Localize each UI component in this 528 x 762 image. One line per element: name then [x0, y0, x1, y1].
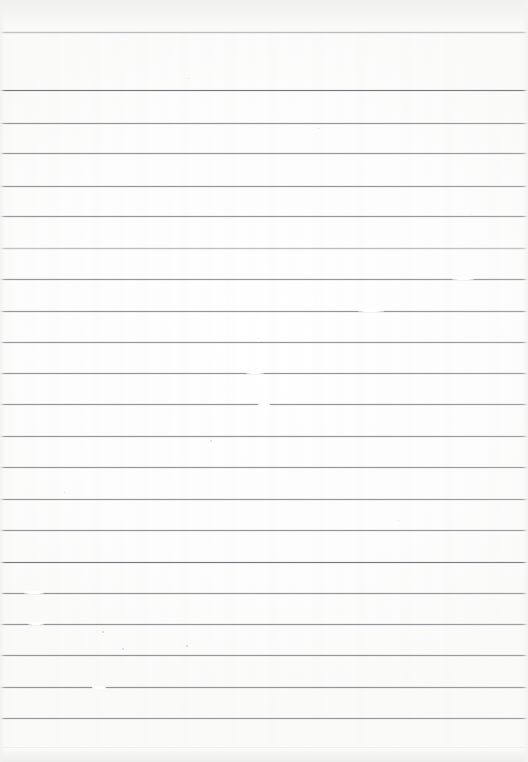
ruling-line-ink: [0, 467, 528, 468]
ruling-line: [0, 216, 528, 217]
ruling-line: [0, 32, 528, 33]
ruling-line-ink: [0, 530, 528, 531]
ruling-line-ink: [0, 153, 528, 154]
line-gap-artifact: [24, 591, 44, 594]
ruling-line-ink: [0, 90, 528, 91]
ruling-line-ink: [0, 499, 528, 500]
line-gap-artifact: [246, 371, 264, 374]
line-gap-artifact: [258, 403, 270, 406]
ruling-line-ink: [0, 123, 528, 124]
scanned-page: [0, 0, 528, 762]
ruling-line-ink: [0, 248, 528, 249]
ruling-line-ink: [0, 624, 528, 625]
line-gap-artifact: [28, 622, 44, 625]
ruling-line: [0, 499, 528, 500]
ruling-line: [0, 373, 528, 374]
ruling-line-ink: [0, 436, 528, 437]
line-gap-artifact: [358, 309, 384, 312]
ruling-line: [0, 562, 528, 563]
ruling-line-ink: [0, 311, 528, 312]
ruling-line-ink: [0, 562, 528, 563]
ruling-lines: [0, 0, 528, 762]
ruling-line: [0, 153, 528, 154]
paper-speck: [122, 648, 124, 650]
ruling-line: [0, 311, 528, 312]
ruling-line-ink: [0, 718, 528, 719]
ruling-line: [0, 687, 528, 688]
ruling-line: [0, 467, 528, 468]
paper-speck: [102, 631, 104, 633]
ruling-line-ink: [0, 748, 528, 749]
ruling-line-ink: [0, 687, 528, 688]
ruling-line: [0, 90, 528, 91]
line-gap-artifact: [452, 277, 474, 280]
ruling-line: [0, 123, 528, 124]
ruling-line: [0, 655, 528, 656]
line-gap-artifact: [92, 686, 106, 689]
ruling-line: [0, 748, 528, 749]
ruling-line-ink: [0, 279, 528, 280]
ruling-line: [0, 279, 528, 280]
ruling-line-ink: [0, 216, 528, 217]
paper-speck: [186, 645, 188, 647]
ruling-line-ink: [0, 186, 528, 187]
ruling-line: [0, 186, 528, 187]
ruling-line-ink: [0, 342, 528, 343]
paper-speck: [210, 440, 212, 442]
ruling-line-ink: [0, 32, 528, 33]
ruling-line: [0, 530, 528, 531]
ruling-line: [0, 718, 528, 719]
ruling-line: [0, 342, 528, 343]
ruling-line: [0, 624, 528, 625]
ruling-line: [0, 593, 528, 594]
ruling-line: [0, 248, 528, 249]
ruling-line: [0, 436, 528, 437]
ruling-line-ink: [0, 655, 528, 656]
ruling-line-ink: [0, 593, 528, 594]
ruling-line-ink: [0, 373, 528, 374]
